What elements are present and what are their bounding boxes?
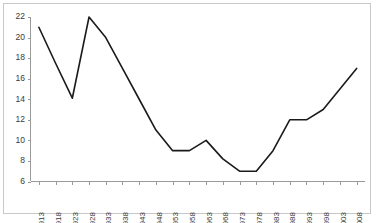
- y-axis-tick-label: 22: [16, 11, 26, 21]
- x-axis-tick-label: 2003: [339, 211, 348, 223]
- x-axis-tick-label: 2008: [355, 211, 364, 223]
- data-series-line: [39, 17, 357, 171]
- y-axis-tick-label: 14: [16, 94, 26, 104]
- y-axis-tick-label: 8: [20, 155, 25, 165]
- x-axis-tick-label: 1958: [188, 211, 197, 223]
- y-axis-tick-labels: 6810121416182022: [16, 11, 26, 186]
- x-axis-tick-label: 1988: [288, 211, 297, 223]
- x-axis-tick-label: 1973: [238, 211, 247, 223]
- x-axis-tick-label: 1953: [171, 211, 180, 223]
- x-axis-tick-label: 1913: [37, 211, 46, 223]
- x-axis-tick-label: 1993: [305, 211, 314, 223]
- x-axis-tick-label: 1963: [205, 211, 214, 223]
- y-axis-tick-label: 20: [16, 32, 26, 42]
- line-chart: 6810121416182022 19131918192319281933193…: [0, 0, 376, 223]
- x-axis-tick-label: 1948: [155, 211, 164, 223]
- y-axis-tick-label: 18: [16, 52, 26, 62]
- y-axis-tick-label: 6: [20, 176, 25, 186]
- y-axis-tick-label: 12: [16, 114, 26, 124]
- x-axis-tick-label: 1998: [322, 211, 331, 223]
- x-axis-tick-label: 1938: [121, 211, 130, 223]
- x-axis-tick-label: 1983: [272, 211, 281, 223]
- x-axis-tick-label: 1943: [138, 211, 147, 223]
- x-axis-tick-label: 1918: [54, 211, 63, 223]
- y-axis-tick-label: 10: [16, 135, 26, 145]
- x-axis-tick-label: 1978: [255, 211, 264, 223]
- x-axis-tick-label: 1923: [71, 211, 80, 223]
- y-axis-tick-label: 16: [16, 73, 26, 83]
- x-axis-tick-label: 1928: [88, 211, 97, 223]
- x-axis-tick-label: 1968: [221, 211, 230, 223]
- x-axis-tick-labels: 1913191819231928193319381943194819531958…: [37, 211, 364, 223]
- x-axis-tick-label: 1933: [104, 211, 113, 223]
